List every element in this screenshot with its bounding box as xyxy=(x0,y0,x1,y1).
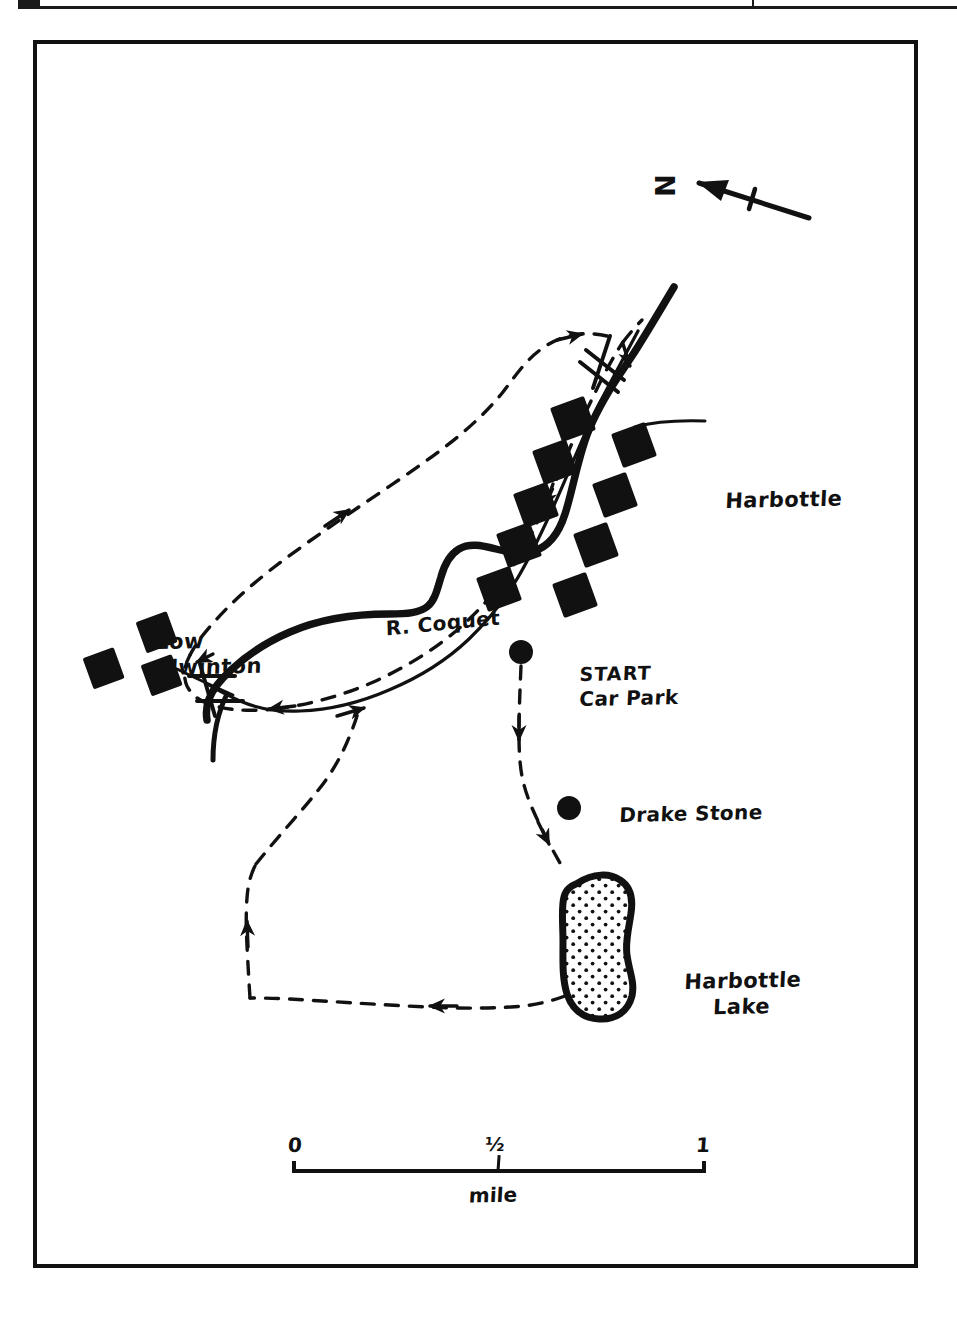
scale-unit-label: mile xyxy=(468,1183,517,1208)
page-header-tick xyxy=(752,0,754,7)
drake-stone-marker xyxy=(557,796,581,820)
scale-bar-end-left xyxy=(292,1161,296,1173)
label-start: START xyxy=(579,662,652,687)
label-low-alwinton: Low Alwinton xyxy=(153,628,263,681)
scale-bar: 0 ½ 1 mile xyxy=(292,1137,706,1221)
scale-label-1: 1 xyxy=(695,1133,711,1157)
map-frame: N Harbottle Low Alwinton R. Coquet START… xyxy=(33,40,918,1268)
scale-label-half: ½ xyxy=(484,1133,505,1155)
start-car-park-marker xyxy=(509,640,533,664)
label-harbottle-lake: Harbottle Lake xyxy=(682,968,801,1022)
scale-label-0: 0 xyxy=(287,1133,303,1157)
north-arrow: N xyxy=(637,156,827,236)
page-header-rule xyxy=(18,6,957,9)
harbottle-lake-shape xyxy=(562,875,632,1019)
label-drake-stone: Drake Stone xyxy=(619,800,764,827)
label-car-park: Car Park xyxy=(579,685,679,711)
label-harbottle: Harbottle xyxy=(725,487,843,515)
scale-bar-end-right xyxy=(702,1161,706,1173)
north-letter: N xyxy=(649,174,680,197)
